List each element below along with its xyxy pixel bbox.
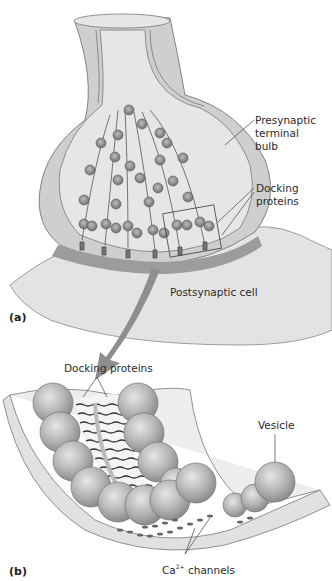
panel-label-a: (a)	[9, 311, 26, 324]
label-calcium-channels: Ca2+ channels	[162, 560, 235, 577]
ca-prefix: Ca	[162, 564, 176, 576]
synapse-diagram	[0, 0, 332, 581]
label-postsynaptic-cell: Postsynaptic cell	[170, 286, 258, 299]
label-docking-proteins-a: Docking proteins	[256, 182, 299, 208]
label-vesicle: Vesicle	[258, 419, 294, 432]
panel-label-b: (b)	[9, 565, 27, 578]
ca-superscript: 2+	[176, 563, 185, 570]
label-presynaptic-terminal-bulb: Presynaptic terminal bulb	[255, 114, 316, 153]
ca-suffix: channels	[185, 564, 235, 576]
label-docking-proteins-b: Docking proteins	[64, 362, 153, 375]
